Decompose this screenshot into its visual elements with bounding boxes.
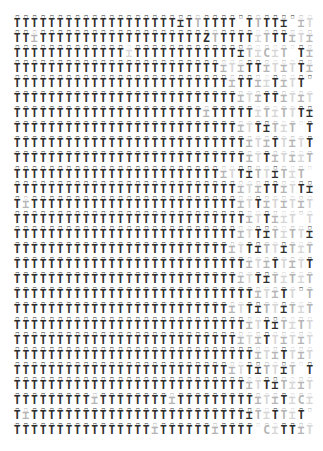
glyph-cell: □T: [13, 195, 22, 210]
glyph-cell: □T: [99, 14, 108, 29]
glyph-cell: □T: [56, 346, 65, 361]
stem-glyph: T: [108, 244, 117, 256]
glyph-cell: □T: [176, 120, 185, 135]
stem-glyph: ⌶: [280, 93, 289, 105]
glyph-cell: □T: [254, 165, 263, 180]
glyph-cell: □T: [133, 331, 142, 346]
glyph-cell: □T: [185, 210, 194, 225]
glyph-cell: □T: [13, 165, 22, 180]
stem-glyph: T: [159, 108, 168, 120]
glyph-cell: □T: [271, 361, 280, 376]
glyph-row: □T□T□T□T□T□T□T□T□T□T□T□T□T□T□T□T□T□T□T□T…: [0, 165, 323, 180]
stem-glyph: T: [133, 259, 142, 271]
glyph-cell: □T: [151, 241, 160, 256]
glyph-cell: □T: [30, 346, 39, 361]
glyph-cell: □T: [297, 105, 306, 120]
glyph-cell: □T: [219, 195, 228, 210]
glyph-cell: □T: [22, 210, 31, 225]
glyph-cell: □T: [99, 407, 108, 422]
glyph-cell: □T: [116, 180, 125, 195]
glyph-cell: □T: [90, 286, 99, 301]
glyph-cell: □T: [47, 346, 56, 361]
glyph-cell: □T: [219, 316, 228, 331]
stem-glyph: T: [56, 425, 65, 437]
glyph-cell: □T: [228, 376, 237, 391]
glyph-cell: □T: [133, 361, 142, 376]
glyph-cell: □T: [90, 316, 99, 331]
stem-glyph: T: [90, 244, 99, 256]
stem-glyph: T: [13, 244, 22, 256]
stem-glyph: T: [245, 229, 254, 241]
stem-glyph: ⌶: [305, 108, 314, 120]
stem-glyph: T: [65, 229, 74, 241]
stem-glyph: T: [39, 425, 48, 437]
glyph-cell: □T: [13, 407, 22, 422]
glyph-cell: □T: [185, 331, 194, 346]
glyph-cell: □T: [73, 90, 82, 105]
glyph-cell: □T: [185, 241, 194, 256]
glyph-cell: □T: [168, 135, 177, 150]
glyph-cell: □T: [47, 180, 56, 195]
stem-glyph: T: [176, 259, 185, 271]
glyph-cell: □T: [219, 361, 228, 376]
stem-glyph: T: [211, 410, 220, 422]
glyph-cell: □T: [228, 331, 237, 346]
glyph-cell: □T: [228, 407, 237, 422]
glyph-cell: □T: [185, 316, 194, 331]
glyph-cell: □T: [116, 90, 125, 105]
glyph-cell: □⌶: [245, 150, 254, 165]
glyph-cell: □T: [305, 376, 314, 391]
stem-glyph: ⌶: [90, 395, 99, 407]
stem-glyph: T: [125, 259, 134, 271]
glyph-cell: □T: [176, 361, 185, 376]
glyph-cell: □T: [125, 361, 134, 376]
stem-glyph: ⌶: [262, 410, 271, 422]
glyph-cell: □T: [194, 407, 203, 422]
stem-glyph: ⌶: [262, 229, 271, 241]
glyph-cell: □T: [237, 74, 246, 89]
glyph-cell: □⌶: [288, 135, 297, 150]
stem-glyph: T: [99, 229, 108, 241]
glyph-cell: □T: [39, 392, 48, 407]
stem-glyph: T: [116, 410, 125, 422]
glyph-cell: □T: [133, 120, 142, 135]
glyph-cell: □T: [262, 165, 271, 180]
glyph-cell: □: [297, 120, 306, 135]
glyph-cell: □T: [142, 180, 151, 195]
glyph-row: □T□T□T□T□T□T□T□T□T□T□T□T□T□T□T□T□T□T□T□T…: [0, 59, 323, 74]
stem-glyph: T: [142, 93, 151, 105]
glyph-cell: □T: [47, 74, 56, 89]
glyph-cell: □⌶: [288, 29, 297, 44]
glyph-cell: □T: [194, 392, 203, 407]
stem-glyph: T: [288, 244, 297, 256]
glyph-cell: □T: [159, 376, 168, 391]
glyph-cell: □T: [151, 165, 160, 180]
glyph-cell: □T: [125, 105, 134, 120]
glyph-cell: □⌶: [262, 256, 271, 271]
glyph-cell: □T: [176, 422, 185, 437]
glyph-cell: □T: [90, 346, 99, 361]
glyph-cell: □T: [116, 376, 125, 391]
glyph-cell: □T: [82, 422, 91, 437]
stem-glyph: T: [228, 425, 237, 437]
glyph-cell: □⌶: [237, 180, 246, 195]
stem-glyph: T: [228, 229, 237, 241]
glyph-cell: □T: [22, 301, 31, 316]
glyph-cell: □T: [219, 210, 228, 225]
ring-mark-glyph: □: [297, 286, 306, 291]
stem-glyph: T: [30, 108, 39, 120]
glyph-cell: □T: [254, 120, 263, 135]
glyph-cell: □T: [90, 105, 99, 120]
glyph-cell: □⌶: [271, 286, 280, 301]
glyph-cell: □T: [56, 90, 65, 105]
glyph-cell: □T: [202, 271, 211, 286]
glyph-cell: □T: [151, 180, 160, 195]
stem-glyph: T: [202, 380, 211, 392]
glyph-cell: □T: [47, 376, 56, 391]
glyph-cell: □T: [168, 316, 177, 331]
glyph-cell: □T: [133, 29, 142, 44]
glyph-cell: □T: [99, 346, 108, 361]
glyph-cell: □T: [151, 361, 160, 376]
glyph-cell: □T: [219, 241, 228, 256]
glyph-cell: □T: [228, 135, 237, 150]
